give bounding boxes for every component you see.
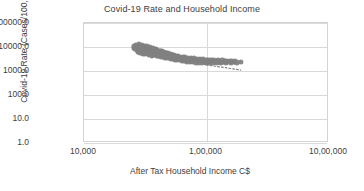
y-tick-label: 1000.0 — [0, 65, 29, 75]
y-tick-label: 10000.0 — [0, 41, 29, 51]
x-tick-label: 10,000 — [38, 146, 128, 156]
y-tick-label: 1.0 — [0, 137, 29, 147]
x-tick-label: 1,00,000 — [161, 146, 251, 156]
x-tick-label: 10,00,000 — [283, 146, 364, 156]
y-tick-label: 100.0 — [0, 89, 29, 99]
y-tick-label: 10.0 — [0, 113, 29, 123]
x-axis-title: After Tax Household Income C$ — [40, 166, 340, 176]
plot-area — [83, 22, 328, 142]
chart-title: Covid-19 Rate and Household Income — [0, 4, 364, 14]
scatter-point — [238, 59, 243, 64]
covid-income-scatter-chart: Covid-19 Rate and Household Income Covid… — [0, 0, 364, 191]
y-tick-label: 100000.0 — [0, 17, 29, 27]
scatter-points-layer — [84, 23, 329, 143]
horizontal-gridline — [84, 143, 327, 144]
